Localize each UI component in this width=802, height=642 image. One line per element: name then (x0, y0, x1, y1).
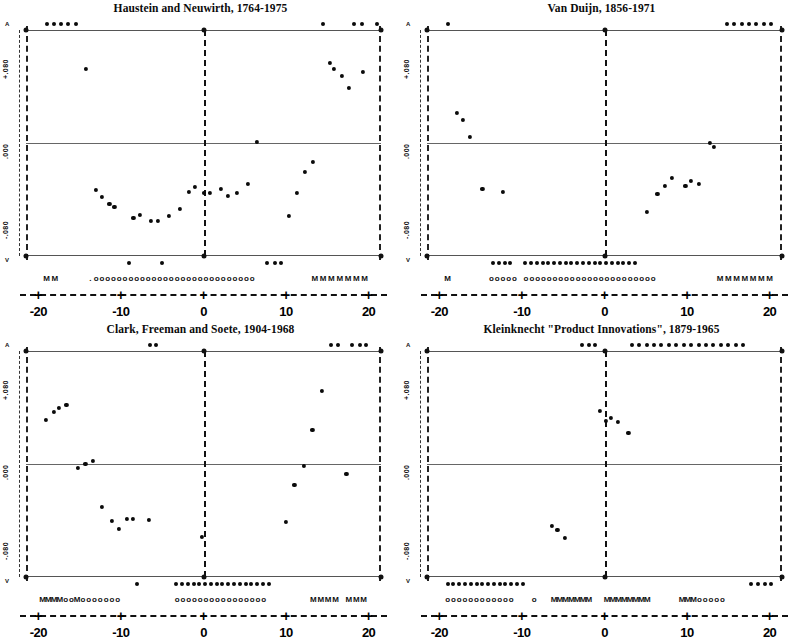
symbol-marker-m: M (52, 273, 59, 284)
y-axis-top-arrow-icon: A (5, 21, 9, 27)
data-point (167, 214, 171, 218)
symbol-marker-circle: o (250, 273, 255, 284)
symbol-marker-circle: o (564, 273, 569, 284)
clipped-point-below (135, 582, 139, 586)
clipped-point-above (630, 343, 634, 347)
axis-corner-dot-0 (24, 28, 29, 33)
symbol-marker-circle: o (610, 273, 615, 284)
data-point (626, 431, 630, 435)
symbol-marker-m: M (353, 273, 360, 284)
data-point (340, 74, 344, 78)
clipped-point-below (273, 261, 277, 265)
x-axis-labels: -20-1001020 (427, 304, 782, 320)
clipped-point-above (74, 22, 78, 26)
x-tick-label-0: -20 (30, 625, 47, 640)
x-tick-label-0: -20 (30, 304, 47, 319)
symbol-marker-m: M (353, 594, 360, 605)
axis-corner-dot-1 (24, 254, 29, 259)
clipped-point-above (732, 22, 736, 26)
symbol-marker-circle: o (605, 273, 610, 284)
symbol-marker-circle: o (227, 594, 232, 605)
axis-corner-dot-3 (379, 575, 384, 580)
symbol-marker-circle: o (163, 273, 168, 284)
clipped-point-below (515, 582, 519, 586)
clipped-point-below (763, 582, 767, 586)
x-axis-tick-0: + (435, 288, 443, 302)
data-point (286, 214, 290, 218)
data-point (597, 409, 601, 413)
y-axis-top-arrow-icon: A (5, 342, 9, 348)
axis-corner-dot-1 (425, 575, 430, 580)
y-tick-label-2: -.080 (2, 221, 9, 239)
clipped-point-above (358, 343, 362, 347)
symbol-marker-circle: o (81, 594, 86, 605)
y-tick-label-0: +.080 (2, 380, 9, 400)
symbol-marker-circle: o (709, 594, 714, 605)
clipped-point-below (451, 582, 455, 586)
clipped-point-above (59, 22, 63, 26)
symbol-marker-circle: o (628, 273, 633, 284)
x-tick-label-2: 0 (601, 625, 608, 640)
symbol-marker-m: M (725, 273, 732, 284)
symbol-marker-circle: o (123, 273, 128, 284)
symbol-marker-circle: o (495, 273, 500, 284)
data-point (131, 216, 135, 220)
clipped-point-below (552, 261, 556, 265)
clipped-point-below (475, 582, 479, 586)
symbol-marker-circle: o (512, 273, 517, 284)
x-tick-label-0: -20 (431, 304, 448, 319)
symbol-marker-circle: o (209, 594, 214, 605)
zero-vertical-axis (605, 30, 607, 256)
x-tick-label-0: -20 (431, 625, 448, 640)
x-axis-tick-1: + (518, 288, 526, 302)
clipped-point-above (593, 343, 597, 347)
data-point (347, 86, 351, 90)
zero-vertical-axis (204, 30, 206, 256)
clipped-point-below (180, 582, 184, 586)
x-tick-label-3: 10 (279, 304, 292, 319)
symbol-marker-circle: o (599, 273, 604, 284)
clipped-point-above (689, 343, 693, 347)
zero-vertical-axis (605, 351, 607, 577)
symbol-marker-m: M (361, 273, 368, 284)
y-axis-top-arrow-icon: A (406, 342, 410, 348)
x-tick-label-4: 20 (362, 625, 375, 640)
symbol-marker-circle: o (639, 273, 644, 284)
axis-corner-dot-0 (425, 349, 430, 354)
symbol-marker-circle: o (94, 273, 99, 284)
clipped-point-above (682, 343, 686, 347)
x-tick-label-4: 20 (763, 304, 776, 319)
clipped-point-below (581, 261, 585, 265)
data-point (125, 517, 129, 521)
symbol-marker-circle: o (63, 594, 68, 605)
symbol-marker-circle: o (553, 273, 558, 284)
y-tick-label-0: +.080 (2, 59, 9, 79)
symbol-marker-circle: o (109, 594, 114, 605)
data-point (94, 188, 98, 192)
data-point (138, 213, 142, 217)
clipped-point-below (749, 582, 753, 586)
axis-corner-dot-4 (201, 28, 206, 33)
clipped-point-above (446, 22, 450, 26)
clipped-point-below (232, 582, 236, 586)
symbol-marker-circle: o (480, 594, 485, 605)
symbol-marker-circle: o (633, 273, 638, 284)
symbol-marker-circle: o (720, 594, 725, 605)
x-axis-tick-2: + (199, 609, 207, 623)
data-point (555, 528, 559, 532)
clipped-point-below (529, 261, 533, 265)
symbol-row: MooooooooooooooooooooooooooooMMMMMMM (427, 273, 782, 284)
symbol-marker-circle: o (714, 594, 719, 605)
data-point (149, 219, 153, 223)
data-point (44, 418, 48, 422)
symbol-marker-circle: o (146, 273, 151, 284)
symbol-marker-circle: o (204, 594, 209, 605)
symbol-marker-circle: o (697, 594, 702, 605)
clipped-point-below (621, 261, 625, 265)
y-tick-label-2: -.080 (2, 542, 9, 560)
clipped-point-above (762, 22, 766, 26)
symbol-marker-circle: o (86, 594, 91, 605)
data-point (645, 210, 649, 214)
symbol-marker-circle: o (169, 273, 174, 284)
plot-left-edge (427, 347, 429, 581)
